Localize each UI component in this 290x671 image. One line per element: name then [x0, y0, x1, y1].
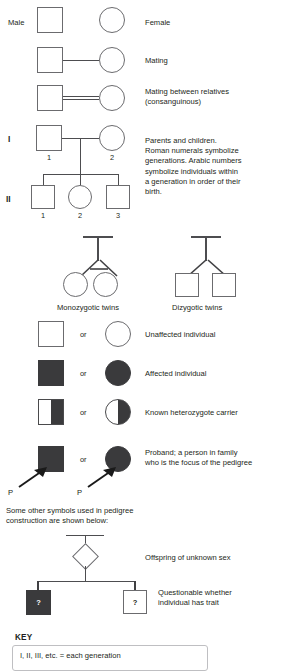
consanguineous-label-text: Mating between relatives (consanguinous) — [145, 87, 229, 106]
questionable-sibship-bar — [37, 581, 135, 582]
proband-marker-right: P — [77, 488, 82, 497]
mating-female-circle — [99, 47, 125, 73]
unaffected-or-text: or — [80, 330, 87, 339]
proband-marker-left: P — [8, 488, 13, 497]
monozygotic-twin-2-circle — [93, 272, 118, 297]
affected-square-symbol — [38, 360, 64, 386]
gen1-number-1: 1 — [42, 153, 56, 162]
questionable-filled-square: ? — [26, 590, 51, 615]
sibling-1-stem — [43, 174, 44, 185]
mating-label: Mating — [145, 56, 168, 66]
carrier-circle-symbol — [105, 399, 131, 425]
gen1-individual-2-circle — [99, 125, 125, 151]
unaffected-circle-symbol — [105, 321, 131, 347]
other-symbols-note-text: Some other symbols used in pedigree cons… — [6, 506, 133, 525]
carrier-square-symbol — [38, 399, 64, 425]
questionable-label: Questionable whether individual has trai… — [158, 588, 288, 608]
consanguineous-line-upper — [63, 96, 99, 97]
gen2-individual-1-square — [31, 185, 55, 209]
proband-label: Proband; a person in family who is the f… — [145, 448, 290, 468]
gen1-number-2: 2 — [105, 153, 119, 162]
proband-arrow-right-icon — [85, 466, 119, 490]
female-label: Female — [145, 18, 170, 28]
consanguineous-line-lower — [63, 99, 99, 100]
affected-circle-symbol — [105, 360, 131, 386]
parents-children-description-text: Parents and children. Roman numerals sym… — [145, 136, 242, 196]
consanguineous-female-circle — [99, 85, 125, 111]
monozygotic-twin-1-circle — [63, 272, 88, 297]
dizygotic-twin-2-square — [212, 273, 236, 297]
dizygotic-twins-label: Dizygotic twins — [172, 303, 222, 313]
gen2-individual-3-square — [106, 185, 130, 209]
questionable-open-mark: ? — [133, 598, 138, 607]
affected-label: Affected individual — [145, 369, 207, 379]
carrier-or-text: or — [80, 408, 87, 417]
monozygotic-twins-label: Monozygotic twins — [57, 303, 119, 313]
proband-label-text: Proband; a person in family who is the f… — [145, 448, 252, 467]
sibling-2-stem — [80, 174, 81, 185]
unknown-sex-label: Offspring of unknown sex — [145, 553, 231, 563]
proband-arrow-left-icon — [16, 466, 50, 490]
questionable-descent-stem — [85, 566, 86, 581]
carrier-label: Known heterozygote carrier — [145, 408, 238, 418]
gen2-number-2: 2 — [73, 211, 87, 220]
mating-male-square — [37, 47, 63, 73]
mating-line — [63, 60, 99, 61]
affected-or-text: or — [80, 369, 87, 378]
questionable-filled-mark: ? — [36, 598, 41, 607]
questionable-label-text: Questionable whether individual has trai… — [158, 588, 232, 607]
gen2-number-3: 3 — [111, 211, 125, 220]
unaffected-square-symbol — [38, 321, 64, 347]
consanguineous-label: Mating between relatives (consanguinous) — [145, 87, 287, 106]
male-label: Male — [8, 18, 24, 28]
gen2-number-1: 1 — [36, 211, 50, 220]
male-square-symbol — [37, 7, 63, 33]
proband-or-text: or — [80, 455, 87, 464]
female-circle-symbol — [99, 7, 125, 33]
generation-2-numeral: II — [6, 194, 11, 204]
generation-1-numeral: I — [8, 134, 10, 144]
gen2-individual-2-circle — [68, 185, 92, 209]
gen1-individual-1-square — [36, 125, 62, 151]
sibling-3-stem — [118, 174, 119, 185]
key-title: KEY — [15, 633, 32, 642]
unaffected-label: Unaffected individual — [145, 330, 215, 340]
questionable-open-square: ? — [123, 590, 147, 614]
consanguineous-male-square — [37, 85, 63, 111]
key-line-generations: I, II, III, etc. = each generation — [20, 651, 121, 660]
other-symbols-note: Some other symbols used in pedigree cons… — [6, 506, 206, 527]
parents-children-description: Parents and children. Roman numerals sym… — [145, 136, 288, 197]
dizygotic-twin-1-square — [175, 273, 199, 297]
